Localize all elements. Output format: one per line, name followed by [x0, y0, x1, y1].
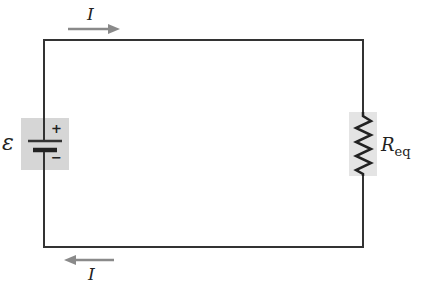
- emf-label: ε: [2, 130, 14, 155]
- resistor-label: Req: [381, 134, 411, 155]
- circuit-diagram: [0, 0, 422, 286]
- current-arrow-top: [68, 24, 120, 34]
- battery-plus-sign: +: [51, 121, 62, 136]
- resistor-label-subscript: eq: [395, 144, 411, 159]
- wire-loop: [44, 40, 363, 247]
- current-label-top: I: [87, 4, 94, 24]
- current-label-bottom: I: [88, 264, 95, 284]
- resistor-label-main: R: [381, 134, 395, 155]
- battery-minus-sign: −: [51, 150, 62, 165]
